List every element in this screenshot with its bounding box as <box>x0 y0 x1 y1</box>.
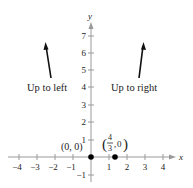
svg-text:4: 4 <box>108 133 112 142</box>
point-origin <box>88 154 94 160</box>
svg-text:2: 2 <box>125 162 130 172</box>
y-axis-arrow-icon <box>89 22 94 29</box>
graph: x y −4 −3 −2 −1 1 2 3 4 −1 1 2 3 4 5 6 7 <box>0 0 193 188</box>
svg-text:2: 2 <box>82 117 87 127</box>
up-right-arrow-icon <box>141 42 146 50</box>
svg-text:−2: −2 <box>48 162 58 172</box>
x-axis-label: x <box>178 152 183 162</box>
svg-text:7: 7 <box>82 31 87 41</box>
svg-text:−3: −3 <box>30 162 40 172</box>
svg-text:(: ( <box>102 136 107 153</box>
svg-text:1: 1 <box>107 162 112 172</box>
svg-text:): ) <box>123 136 128 153</box>
y-tick-labels: −1 1 2 3 4 5 6 7 <box>76 31 86 180</box>
x-axis-arrow-icon <box>169 155 176 160</box>
up-right-arrow <box>139 46 143 78</box>
x-tick-labels: −4 −3 −2 −1 1 2 3 4 <box>12 162 166 172</box>
svg-text:,: , <box>114 139 116 149</box>
svg-text:3: 3 <box>143 162 148 172</box>
up-to-right-label: Up to right <box>111 82 157 93</box>
up-to-left-label: Up to left <box>27 82 67 93</box>
svg-text:3: 3 <box>108 144 112 153</box>
svg-text:3: 3 <box>82 100 87 110</box>
svg-text:4: 4 <box>82 82 87 92</box>
svg-text:−1: −1 <box>76 170 86 180</box>
y-axis-label: y <box>87 11 92 21</box>
svg-text:−4: −4 <box>12 162 22 172</box>
svg-text:0: 0 <box>117 139 122 149</box>
svg-text:6: 6 <box>82 48 87 58</box>
point-four-thirds <box>112 154 118 160</box>
svg-text:4: 4 <box>161 162 166 172</box>
up-left-arrow <box>46 46 51 78</box>
svg-text:5: 5 <box>82 65 87 75</box>
up-left-arrow-icon <box>44 42 49 50</box>
origin-label: (0, 0) <box>61 141 83 153</box>
svg-text:−1: −1 <box>66 162 76 172</box>
point-four-thirds-label: ( 4 3 , 0 ) <box>102 133 128 153</box>
